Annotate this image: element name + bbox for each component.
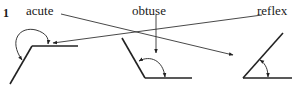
acute-arc — [260, 60, 268, 77]
reflex-arc — [16, 29, 48, 60]
matching-lines — [53, 14, 262, 55]
acute-angle-figure — [243, 33, 292, 78]
obtuse-angle-figure — [122, 38, 192, 78]
angles-diagram — [0, 0, 295, 87]
reflex-angle-figure — [10, 29, 78, 84]
acute-match-line — [61, 14, 233, 55]
